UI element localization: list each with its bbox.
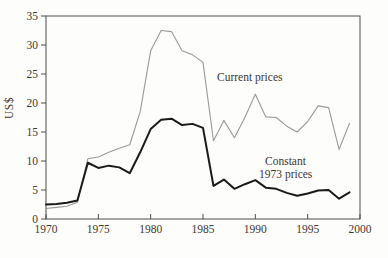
- series-line-current-prices: [46, 31, 350, 209]
- x-tick-label: 1970: [35, 223, 58, 235]
- constant-prices-annotation-line1: Constant: [265, 155, 312, 168]
- y-tick-label: 20: [27, 97, 39, 109]
- y-tick-label: 10: [27, 155, 39, 167]
- y-axis-label: US$: [3, 97, 15, 119]
- y-tick-label: 30: [27, 39, 39, 51]
- x-tick-label: 1975: [87, 223, 110, 235]
- y-tick-label: 25: [27, 68, 39, 80]
- y-tick-label: 35: [27, 10, 39, 22]
- y-tick-label: 5: [32, 184, 38, 196]
- x-tick-label: 1985: [192, 223, 215, 235]
- plot-frame: [46, 16, 360, 219]
- x-tick-label: 2000: [349, 223, 372, 235]
- oil-price-chart-figure: 0510152025303519701975198019851990199520…: [0, 0, 388, 258]
- constant-prices-annotation: Constant 1973 prices: [259, 155, 312, 181]
- current-prices-annotation: Current prices: [217, 71, 282, 84]
- x-tick-label: 1995: [296, 223, 319, 235]
- y-tick-label: 15: [27, 126, 39, 138]
- x-tick-label: 1980: [139, 223, 162, 235]
- x-tick-label: 1990: [244, 223, 267, 235]
- constant-prices-annotation-line2: 1973 prices: [259, 168, 312, 181]
- price-chart: 0510152025303519701975198019851990199520…: [0, 0, 388, 258]
